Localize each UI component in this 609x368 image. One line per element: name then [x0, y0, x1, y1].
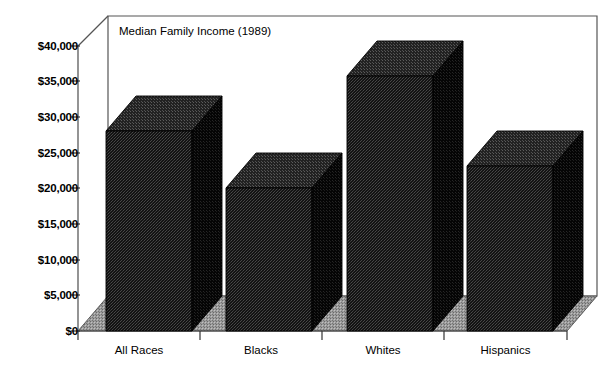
bar-front-face	[226, 188, 312, 331]
x-tick-marks	[78, 331, 567, 340]
chart-canvas	[0, 0, 609, 368]
chart-title: Median Family Income (1989)	[119, 26, 271, 38]
y-tick-label: $40,000	[38, 41, 78, 53]
y-tick-label: $35,000	[38, 76, 78, 88]
y-tick-label: $15,000	[38, 219, 78, 231]
x-tick-label-whites: Whites	[322, 345, 444, 357]
bar-front-face	[467, 166, 553, 331]
bar-all-races	[106, 96, 222, 331]
bar-front-face	[106, 131, 192, 331]
x-tick-label-hispanics: Hispanics	[444, 345, 567, 357]
x-tick-label-blacks: Blacks	[200, 345, 322, 357]
chart-figure: Median Family Income (1989) $40,000 $35,…	[0, 0, 609, 368]
y-tick-label: $20,000	[38, 183, 78, 195]
bar-side-face	[433, 41, 463, 331]
bar-whites	[347, 41, 463, 331]
bar-front-face	[347, 76, 433, 331]
y-tick-label: $0	[66, 326, 78, 338]
y-tick-label: $30,000	[38, 112, 78, 124]
y-tick-label: $5,000	[44, 290, 78, 302]
y-axis-labels: $40,000 $35,000 $30,000 $25,000 $20,000 …	[0, 0, 78, 368]
bar-hispanics	[467, 131, 583, 331]
y-tick-label: $25,000	[38, 148, 78, 160]
bar-side-face	[553, 131, 583, 331]
depth-edge-top-left	[78, 16, 108, 46]
bar-blacks	[226, 153, 342, 331]
y-tick-label: $10,000	[38, 255, 78, 267]
bar-side-face	[192, 96, 222, 331]
x-tick-label-all-races: All Races	[78, 345, 200, 357]
